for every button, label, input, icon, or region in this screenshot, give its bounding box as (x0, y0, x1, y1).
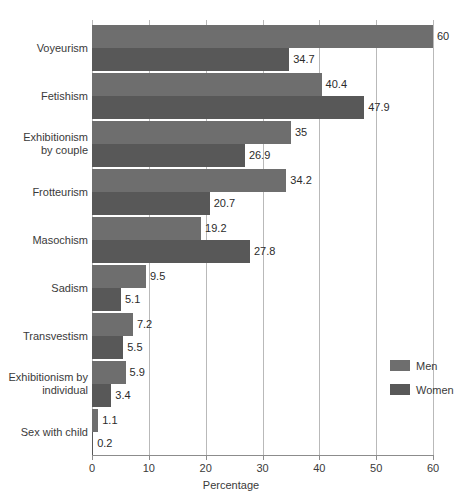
x-tick-label: 40 (313, 462, 325, 474)
legend-item: Men (390, 357, 454, 374)
bar (92, 144, 245, 167)
category-label: Masochism (0, 234, 88, 247)
bar-value-label: 40.4 (326, 73, 347, 96)
legend-swatch-icon (390, 384, 410, 395)
bar (92, 48, 289, 71)
bar (92, 240, 250, 263)
legend: MenWomen (390, 357, 454, 405)
category-label: Sadism (0, 282, 88, 295)
bar-value-label: 3.4 (115, 384, 130, 407)
category-label: Sex with child (0, 426, 88, 439)
legend-swatch-icon (390, 360, 410, 371)
bar-value-label: 35 (295, 121, 307, 144)
category-label: Fetishism (0, 90, 88, 103)
bar (92, 409, 98, 432)
bar-value-label: 7.2 (137, 313, 152, 336)
bar-value-label: 9.5 (150, 265, 165, 288)
x-tick-label: 20 (200, 462, 212, 474)
bar-value-label: 19.2 (205, 217, 226, 240)
x-tick (263, 455, 264, 460)
x-tick (149, 455, 150, 460)
category-label: Voyeurism (0, 42, 88, 55)
bar (92, 336, 123, 359)
x-tick-label: 30 (256, 462, 268, 474)
bar (92, 96, 364, 119)
x-axis-title: Percentage (0, 479, 462, 491)
bar (92, 73, 322, 96)
bar (92, 432, 93, 455)
bar-value-label: 5.5 (127, 336, 142, 359)
bar-value-label: 47.9 (368, 96, 389, 119)
category-label: Exhibitionism by individual (0, 371, 88, 397)
bar-value-label: 20.7 (214, 192, 235, 215)
x-tick-label: 0 (89, 462, 95, 474)
bar (92, 217, 201, 240)
bar (92, 265, 146, 288)
bar (92, 169, 286, 192)
x-tick (206, 455, 207, 460)
bar (92, 288, 121, 311)
x-tick (319, 455, 320, 460)
bar-value-label: 34.7 (293, 48, 314, 71)
bar-chart: 6034.740.447.93526.934.220.719.227.89.55… (0, 0, 462, 503)
x-tick-label: 10 (143, 462, 155, 474)
bars-layer: 6034.740.447.93526.934.220.719.227.89.55… (92, 20, 433, 455)
category-label: Transvestism (0, 330, 88, 343)
bar-value-label: 34.2 (290, 169, 311, 192)
bar-value-label: 0.2 (97, 432, 112, 455)
bar (92, 313, 133, 336)
bar (92, 384, 111, 407)
category-label: Exhibitionism by couple (0, 131, 88, 157)
bar-value-label: 5.9 (130, 361, 145, 384)
bar-value-label: 1.1 (102, 409, 117, 432)
bar (92, 121, 291, 144)
legend-item: Women (390, 381, 454, 398)
x-tick (376, 455, 377, 460)
bar (92, 25, 433, 48)
category-label: Frotteurism (0, 186, 88, 199)
bar-value-label: 27.8 (254, 240, 275, 263)
legend-label: Women (416, 384, 454, 396)
x-tick (433, 455, 434, 460)
bar (92, 192, 210, 215)
x-tick (92, 455, 93, 460)
bar (92, 361, 126, 384)
x-tick-label: 50 (370, 462, 382, 474)
bar-value-label: 5.1 (125, 288, 140, 311)
legend-label: Men (416, 360, 437, 372)
bar-value-label: 60 (437, 25, 449, 48)
x-tick-label: 60 (427, 462, 439, 474)
bar-value-label: 26.9 (249, 144, 270, 167)
